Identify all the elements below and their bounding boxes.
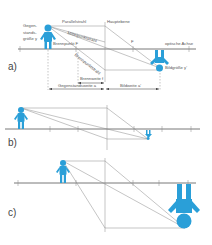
image-size-label: Bildgröße y' [165, 66, 187, 70]
image-distance-label: Bildweite a' [120, 84, 141, 88]
object-figure-icon [14, 107, 28, 129]
panel-label-a: a) [8, 62, 17, 72]
focal-point-right-label: F [131, 40, 134, 44]
object-distance-label: Gegenstandsweite a [58, 84, 96, 88]
focal-length-label: Brennweite f [80, 77, 103, 81]
principal-plane-label: Hauptebene [107, 20, 130, 24]
panel-b-graphic [5, 105, 200, 150]
panel-label-c: c) [8, 208, 16, 218]
panel-c-graphic [14, 158, 196, 232]
panel-label-b: b) [8, 138, 17, 148]
parallel-ray-label: Parallelstrahl [62, 20, 86, 24]
image-figure-icon [168, 184, 200, 229]
optical-axis-label: optische Achse [165, 42, 193, 46]
focal-point-label: Brennpunkt F [53, 42, 78, 46]
lens-diagram: a) b) c) Gegen- stands- größe y Parallel… [0, 0, 212, 245]
object-size-label: Gegen- stands- größe y [23, 23, 37, 43]
